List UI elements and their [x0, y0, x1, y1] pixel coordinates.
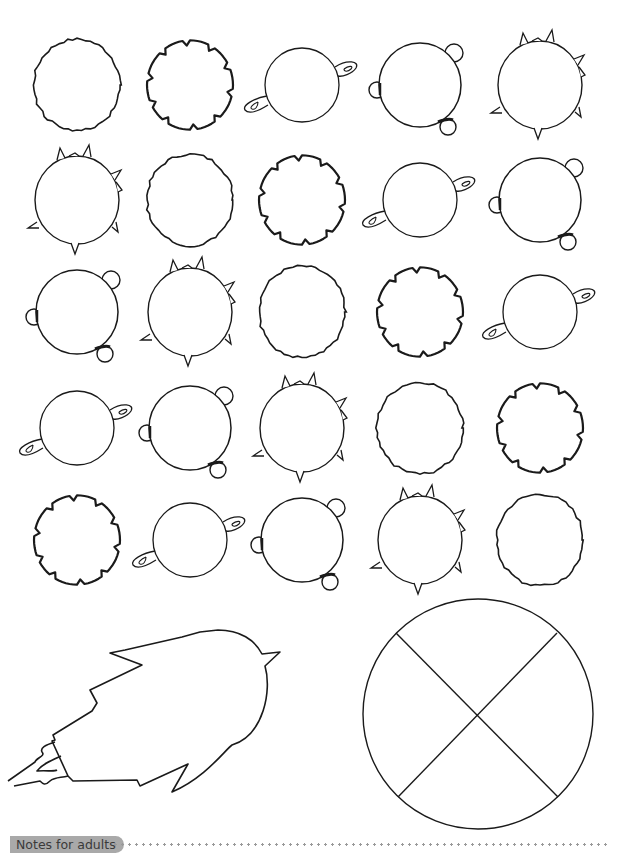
planet-grid	[20, 30, 595, 594]
wobbly-planet-shape	[260, 265, 347, 357]
wobbly-planet-shape	[376, 383, 464, 475]
wobbly-planet-shape	[497, 494, 584, 585]
spiky-planet-shape	[253, 373, 347, 482]
planet-with-moons-shape	[26, 270, 120, 362]
spiky-planet-shape	[491, 30, 585, 139]
spiky-planet-shape	[371, 485, 465, 594]
notes-for-adults-label: Notes for adults	[10, 836, 124, 853]
notched-planet-shape	[259, 155, 345, 244]
planet-with-moons-shape	[489, 158, 583, 250]
notched-planet-shape	[377, 267, 463, 356]
planet-with-moons-shape	[139, 386, 233, 478]
spiky-planet-shape	[141, 257, 235, 366]
ringed-planet-shape	[20, 391, 132, 465]
ringed-planet-shape	[363, 163, 475, 237]
rocket-outline	[8, 630, 280, 792]
notched-planet-shape	[34, 495, 120, 584]
dotted-rule	[112, 843, 607, 846]
footer: Notes for adults	[0, 836, 617, 853]
wobbly-planet-shape	[147, 154, 233, 247]
notched-planet-shape	[147, 40, 233, 129]
spiky-planet-shape	[28, 145, 122, 254]
notched-planet-shape	[497, 383, 583, 472]
worksheet-canvas	[0, 0, 617, 853]
ringed-planet-shape	[483, 275, 595, 349]
divided-circle	[363, 599, 593, 829]
planet-with-moons-shape	[251, 498, 345, 590]
ringed-planet-shape	[133, 503, 245, 577]
ringed-planet-shape	[245, 48, 357, 122]
wobbly-planet-shape	[33, 38, 121, 131]
planet-with-moons-shape	[369, 43, 463, 135]
